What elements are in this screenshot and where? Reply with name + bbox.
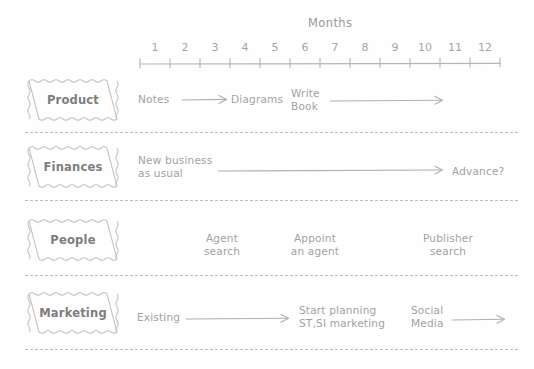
arrow-notes-to-diagrams: [182, 92, 230, 108]
note-finances-new-business: New business as usual: [138, 154, 212, 180]
lane-label-product: Product: [47, 93, 99, 107]
arrow-social-media-duration: [452, 311, 510, 327]
tick-label: 10: [418, 41, 432, 54]
tick-label: 11: [448, 41, 462, 54]
note-marketing-start-planning: Start planning ST,SI marketing: [299, 304, 385, 330]
note-marketing-social-media: Social Media: [411, 304, 444, 330]
note-marketing-existing: Existing: [137, 311, 180, 324]
note-product-diagrams: Diagrams: [231, 93, 283, 106]
lane-label-people: People: [50, 233, 95, 247]
separator-bottom: [25, 349, 518, 350]
lane-label-marketing: Marketing: [39, 306, 107, 320]
separator-product-finances: [25, 132, 518, 133]
tick-label: 7: [332, 41, 339, 54]
lane-label-finances: Finances: [44, 160, 103, 174]
tick-label: 9: [392, 41, 399, 54]
arrow-write-book-duration: [330, 93, 448, 109]
tick-label: 12: [478, 41, 492, 54]
tick-label: 5: [272, 41, 279, 54]
note-product-write-book: Write Book: [291, 87, 320, 113]
tick-label: 2: [182, 41, 189, 54]
lane-box-product: Product: [28, 79, 118, 121]
tick-label: 4: [242, 41, 249, 54]
note-finances-advance: Advance?: [452, 165, 504, 178]
timeline-diagram: Months 1 2 3 4 5 6 7 8: [0, 0, 534, 369]
months-axis: 1 2 3 4 5 6 7 8 9 10 11 12: [0, 0, 534, 80]
tick-label: 6: [302, 41, 309, 54]
tick-label: 1: [152, 41, 159, 54]
note-product-notes: Notes: [138, 93, 169, 106]
note-people-publisher-search: Publisher search: [418, 232, 478, 258]
note-people-appoint-agent: Appoint an agent: [285, 232, 345, 258]
lane-box-people: People: [28, 219, 118, 261]
arrow-finances-duration: [218, 162, 448, 178]
tick-label: 3: [212, 41, 219, 54]
lane-box-marketing: Marketing: [28, 292, 118, 334]
axis-tick-labels: 1 2 3 4 5 6 7 8 9 10 11 12: [152, 41, 493, 54]
separator-people-marketing: [25, 275, 518, 276]
arrow-existing-duration: [186, 310, 294, 326]
separator-finances-people: [25, 200, 518, 201]
note-people-agent-search: Agent search: [196, 232, 248, 258]
lane-box-finances: Finances: [28, 146, 118, 188]
tick-label: 8: [362, 41, 369, 54]
